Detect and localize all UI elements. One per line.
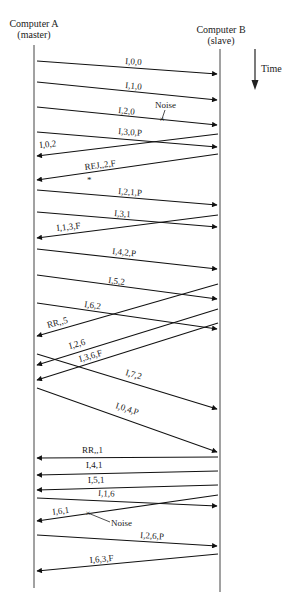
message-arrow [37, 154, 218, 180]
message-i-7-2: I,7,2 [37, 354, 217, 409]
message-label: I,2,6,P [140, 530, 164, 541]
message-label: I,6,2 [84, 299, 102, 311]
message-label: I,0,0 [125, 56, 143, 67]
computer-b-title: Computer B [196, 24, 245, 35]
message-arrow [37, 471, 218, 475]
message-rr-1: RR,,1 [37, 445, 218, 458]
message-rej-2-f: REJ,,2,F [37, 154, 218, 180]
message-label: I,3,6,F [78, 348, 104, 364]
message-rr-5: RR,,5 [37, 284, 218, 336]
message-arrow [37, 354, 217, 409]
noise-label: Noise [111, 518, 132, 528]
message-group: I,0,0I,1,0I,2,0I,3,0,PI,0,2REJ,,2,FI,2,1… [37, 56, 218, 571]
message-label: I,6,1 [52, 505, 70, 517]
message-i-5-2: I,5,2 [37, 275, 217, 299]
message-i-0-4-p: I,0,4,P [37, 388, 217, 452]
message-arrow [37, 554, 218, 571]
message-label: I,2,0 [118, 105, 136, 117]
message-label: I,0,2 [39, 138, 57, 150]
message-label: I,3,0,P [118, 126, 142, 138]
message-arrow [37, 275, 217, 299]
message-arrow [37, 485, 218, 490]
computer-a-subtitle: (master) [17, 29, 50, 41]
message-label: I,6,3,F [89, 553, 114, 565]
message-label: REJ,,2,F [84, 158, 116, 172]
sequence-diagram: Computer A (master) Computer B (slave) T… [0, 0, 302, 607]
asterisk-marker: * [87, 175, 92, 185]
message-i-5-1: I,5,1 [37, 475, 218, 490]
message-label: I,5,1 [88, 475, 105, 485]
message-i-2-6-p: I,2,6,P [37, 530, 217, 546]
message-label: I,2,6 [68, 337, 87, 351]
message-label: I,3,1 [114, 208, 131, 219]
time-label: Time [261, 63, 282, 74]
message-i-1-0: I,1,0 [37, 80, 217, 100]
message-label: I,1,0 [125, 80, 143, 92]
message-label: RR,,1 [82, 445, 103, 455]
computer-b-subtitle: (slave) [207, 35, 234, 47]
message-i-2-0: I,2,0 [37, 105, 217, 125]
message-arrow [37, 535, 217, 546]
noise-cross-icon: × [160, 114, 165, 124]
message-label: I,0,4,P [114, 400, 140, 417]
message-label: I,4,2,P [112, 246, 137, 258]
message-label: I,4,1 [86, 460, 103, 470]
message-label: I,7,2 [124, 367, 143, 381]
message-i-0-0: I,0,0 [37, 56, 217, 74]
message-arrow [37, 457, 218, 458]
message-i-4-2-p: I,4,2,P [37, 246, 217, 269]
message-i-2-1-p: I,2,1,P [37, 186, 217, 205]
time-arrow-icon [252, 49, 259, 90]
noise-label: Noise [155, 100, 176, 110]
message-arrow [37, 388, 217, 452]
message-label: I,1,3,F [56, 220, 81, 233]
message-label: I,2,1,P [118, 186, 142, 198]
noise-pointer [88, 513, 110, 522]
message-i-4-1: I,4,1 [37, 460, 218, 475]
message-arrow [37, 284, 218, 336]
computer-a-title: Computer A [9, 18, 59, 29]
message-i-6-3-f: I,6,3,F [37, 553, 218, 571]
message-i-3-0-p: I,3,0,P [37, 126, 217, 147]
message-label: I,1,6 [98, 488, 115, 499]
noise-cross-icon: × [86, 508, 91, 518]
message-label: I,5,2 [108, 275, 126, 287]
message-i-1-6: I,1,6 [37, 488, 217, 506]
